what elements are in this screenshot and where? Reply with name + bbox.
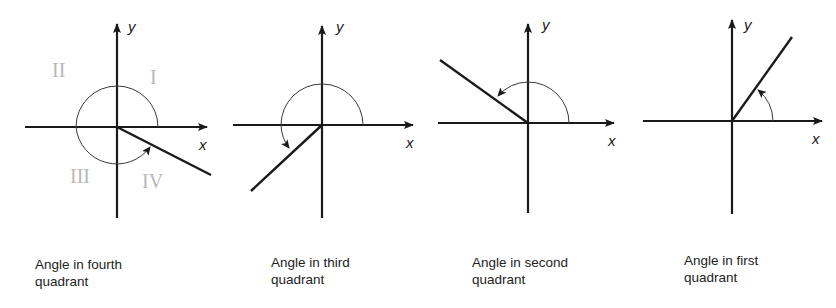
angle-arc (758, 90, 773, 121)
caption-line: Angle in first (684, 252, 758, 269)
x-label: x (198, 136, 207, 153)
quadrant-mark-I: I (150, 66, 157, 88)
caption-third-quadrant: Angle in third quadrant (271, 254, 350, 288)
caption-line: Angle in third (271, 254, 350, 271)
caption-line: quadrant (472, 271, 568, 288)
panel-third-quadrant: y x (233, 18, 414, 218)
terminal-side (732, 37, 792, 121)
panel-fourth-quadrant: y x II I III IV (25, 18, 211, 218)
terminal-side (117, 127, 211, 175)
y-label: y (541, 16, 551, 33)
quadrant-mark-III: III (70, 165, 90, 187)
panel-first-quadrant: y x (643, 16, 822, 214)
x-label: x (405, 134, 414, 151)
terminal-side (251, 125, 322, 191)
y-label: y (743, 16, 753, 33)
angle-arc (498, 82, 569, 123)
caption-second-quadrant: Angle in second quadrant (472, 254, 568, 288)
caption-line: Angle in second (472, 254, 568, 271)
caption-first-quadrant: Angle in first quadrant (684, 252, 758, 286)
caption-line: quadrant (684, 269, 758, 286)
quadrant-mark-II: II (52, 59, 65, 81)
caption-fourth-quadrant: Angle in fourth quadrant (35, 256, 122, 290)
caption-line: quadrant (271, 271, 350, 288)
caption-line: quadrant (35, 273, 122, 290)
terminal-side (440, 60, 528, 123)
panel-second-quadrant: y x (438, 16, 616, 213)
y-label: y (335, 18, 345, 35)
x-label: x (811, 130, 820, 147)
x-label: x (607, 132, 616, 149)
y-label: y (127, 18, 137, 35)
quadrant-mark-IV: IV (142, 170, 164, 192)
caption-line: Angle in fourth (35, 256, 122, 273)
